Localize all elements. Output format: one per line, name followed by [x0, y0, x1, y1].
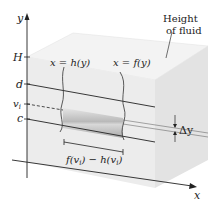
- curve-label-h: x = h(y): [50, 57, 90, 68]
- curve-label-f: x = f(y): [113, 57, 151, 68]
- y-axis-label: y: [16, 12, 24, 25]
- fluid-force-diagram: y x H d vi c x = h(y) x = f(y) Height of…: [0, 0, 210, 207]
- tick-label-d: d: [16, 78, 23, 91]
- diagram-svg: y x H d vi c x = h(y) x = f(y) Height of…: [0, 0, 210, 207]
- y-axis-arrow: [25, 13, 30, 20]
- tick-label-vi: vi: [13, 98, 21, 111]
- x-axis-label: x: [194, 189, 201, 202]
- tick-label-c: c: [17, 112, 23, 125]
- annotation-height-line2: of fluid: [166, 25, 202, 36]
- tick-label-H: H: [12, 51, 23, 64]
- delta-y-label: Δy: [179, 124, 194, 137]
- annotation-height-line1: Height: [163, 13, 198, 24]
